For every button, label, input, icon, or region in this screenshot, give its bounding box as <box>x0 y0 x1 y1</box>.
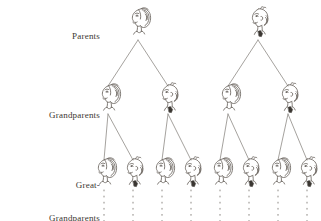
person-figure-great-grandparents-7-female <box>272 158 290 184</box>
connector-line <box>228 40 258 86</box>
connector-line <box>108 114 133 160</box>
row-label-grandparents-line-1: Grandparents <box>0 110 100 121</box>
connector-lines <box>104 40 307 160</box>
person-figure-great-grandparents-5-female <box>214 158 232 184</box>
figure-layer <box>98 7 317 187</box>
person-figure-parents-1-female <box>132 8 150 34</box>
person-figure-great-grandparents-1-female <box>98 158 116 184</box>
connector-line <box>104 114 108 160</box>
connector-line <box>288 114 307 160</box>
connector-line <box>138 40 168 86</box>
person-figure-grandparents-2-male <box>162 83 178 113</box>
person-figure-grandparents-1-female <box>102 84 120 110</box>
person-figure-grandparents-4-male <box>282 83 298 113</box>
person-figure-great-grandparents-8-male <box>301 157 317 187</box>
row-label-parents: Parents <box>0 9 100 64</box>
row-label-parents-line-1: Parents <box>0 31 100 42</box>
row-label-grandparents: Grandparents <box>0 88 100 143</box>
person-figure-great-grandparents-6-male <box>243 157 259 187</box>
family-tree-diagram: Parents Grandparents Great- Grandparents <box>0 0 321 221</box>
connector-line <box>228 114 249 160</box>
connector-line <box>162 114 168 160</box>
person-figure-great-grandparents-2-male <box>127 157 143 187</box>
row-label-great-grandparents: Great- Grandparents <box>0 158 100 221</box>
connector-line <box>278 114 288 160</box>
connector-line <box>108 40 138 86</box>
row-label-great-grandparents-line-1: Great- <box>0 180 100 191</box>
person-figure-great-grandparents-3-female <box>156 158 174 184</box>
connector-line <box>168 114 191 160</box>
person-figure-great-grandparents-4-male <box>185 157 201 187</box>
row-label-great-grandparents-line-2: Grandparents <box>0 213 100 221</box>
connector-line <box>220 114 228 160</box>
person-figure-parents-2-male <box>252 7 268 37</box>
person-figure-grandparents-3-female <box>222 84 240 110</box>
continuation-dots <box>104 190 307 221</box>
connector-line <box>258 40 288 86</box>
